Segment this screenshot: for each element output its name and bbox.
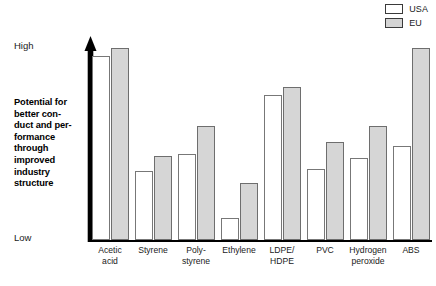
- x-axis-line: [88, 240, 432, 242]
- y-axis-high-label: High: [14, 40, 34, 51]
- bar-eu-ethylene: [240, 183, 258, 240]
- bar-groups: [88, 36, 432, 240]
- bar-usa-styrene: [135, 171, 153, 240]
- x-axis-category-labels: AceticacidStyrenePoly-styreneEthyleneLDP…: [88, 245, 432, 285]
- bar-usa-ethylene: [221, 218, 239, 240]
- x-axis-label-abs: ABS: [385, 245, 436, 256]
- bar-eu-acetic-acid: [111, 48, 129, 240]
- x-axis-label-line: HDPE: [256, 256, 308, 267]
- x-axis-label-line: styrene: [170, 256, 222, 267]
- x-axis-label-line: ABS: [385, 245, 436, 256]
- bar-eu-hydrogen-peroxide: [369, 126, 387, 240]
- bar-usa-ldpe-hdpe: [264, 95, 282, 240]
- y-axis-caption-line: through: [14, 143, 82, 155]
- chart-plot-area: High Low Potential for better con- duct …: [0, 0, 436, 286]
- y-axis-low-label: Low: [14, 232, 31, 243]
- y-axis-caption-line: formance: [14, 132, 82, 144]
- bar-usa-pvc: [307, 169, 325, 240]
- y-axis-caption-line: duct and per-: [14, 120, 82, 132]
- y-axis-caption-line: Potential for: [14, 97, 82, 109]
- y-axis-caption-line: structure: [14, 178, 82, 190]
- bar-eu-abs: [412, 48, 430, 240]
- y-axis-caption-line: better con-: [14, 109, 82, 121]
- bar-eu-poly-styrene: [197, 126, 215, 240]
- bar-usa-hydrogen-peroxide: [350, 158, 368, 240]
- bar-eu-styrene: [154, 156, 172, 240]
- bar-usa-poly-styrene: [178, 154, 196, 240]
- y-axis-caption-line: improved: [14, 155, 82, 167]
- y-axis-caption-line: industry: [14, 167, 82, 179]
- bar-usa-abs: [393, 146, 411, 240]
- x-axis-label-line: peroxide: [342, 256, 394, 267]
- bar-eu-ldpe-hdpe: [283, 87, 301, 240]
- bar-usa-acetic-acid: [92, 56, 110, 240]
- bar-eu-pvc: [326, 142, 344, 240]
- y-axis-caption: Potential for better con- duct and per- …: [14, 97, 82, 190]
- x-axis-label-line: acid: [84, 256, 136, 267]
